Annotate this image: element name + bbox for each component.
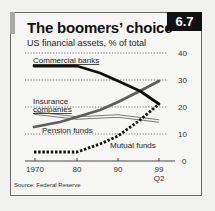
label-mutual-funds: Mutual funds <box>110 141 156 150</box>
y-tick-0: 0 <box>182 157 187 166</box>
label-insurance-line2: companies <box>33 105 72 114</box>
y-tick-30: 30 <box>178 76 187 85</box>
y-tick-10: 10 <box>178 130 187 139</box>
x-tick-1970: 1970 <box>26 165 44 174</box>
line-chart: 40 30 20 10 0 1970 80 90 99 Q2 Commercia… <box>0 0 215 211</box>
x-tick-99: 99 <box>155 165 164 174</box>
source-note: Source: Federal Reserve <box>14 182 81 188</box>
x-tick-labels: 1970 80 90 99 Q2 <box>26 165 165 183</box>
y-tick-labels: 40 30 20 10 0 <box>178 49 187 166</box>
x-tick-q2: Q2 <box>154 174 165 183</box>
label-commercial-banks: Commercial banks <box>33 56 99 65</box>
y-tick-40: 40 <box>178 49 187 58</box>
x-tick-90: 90 <box>114 165 123 174</box>
x-tick-80: 80 <box>73 165 82 174</box>
y-tick-20: 20 <box>178 103 187 112</box>
label-pension-funds: Pension funds <box>42 126 93 135</box>
